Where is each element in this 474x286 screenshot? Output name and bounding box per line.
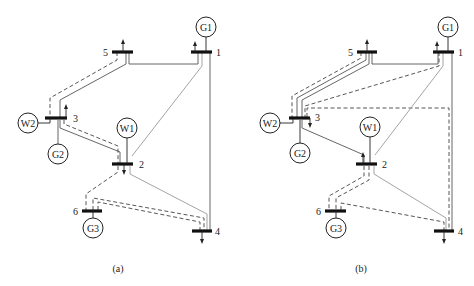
svg-text:G1: G1 [442,22,454,33]
load-arrow-icon [122,164,126,175]
bus-label-2: 2 [139,159,144,170]
bus-label-1: 1 [458,47,463,58]
svg-text:G2: G2 [52,149,64,160]
load-arrow-icon [121,39,125,52]
bus-label-1: 1 [216,47,221,58]
generator-g1: G1 [438,17,458,37]
bus-label-6: 6 [316,206,321,217]
bus-label-6: 6 [73,206,78,217]
load-arrow-icon [365,39,369,52]
generator-g3: G3 [83,218,103,238]
bus-label-3: 3 [315,112,320,123]
load-arrow-icon [442,231,446,244]
generator-g2: G2 [290,143,310,163]
line-6-4-dashed-2 [98,202,200,230]
load-arrow-icon [200,231,204,244]
svg-text:G3: G3 [330,223,342,234]
line-2-6-dashed-1 [329,166,364,210]
load-arrow-icon [193,41,197,52]
load-arrow-icon [435,41,439,52]
panel-a: 5 1 3 2 6 4 G1 W2 [18,17,221,275]
svg-text:W2: W2 [21,118,35,129]
generator-w1: W1 [360,117,380,137]
line-3-2-dashed [64,120,118,163]
caption-b: (b) [355,263,367,275]
svg-text:G3: G3 [87,223,99,234]
line-5-1 [129,52,198,64]
line-6-4-dashed-1 [93,198,204,230]
caption-a: (a) [112,263,123,275]
line-1-2 [132,52,202,156]
bus-label-5: 5 [348,47,353,58]
bus-label-4: 4 [215,226,220,237]
svg-text:W1: W1 [363,122,377,133]
line-5-3 [60,52,126,117]
generator-w2: W2 [18,113,38,133]
svg-text:G1: G1 [200,22,212,33]
line-2-4 [130,166,207,230]
svg-text:W2: W2 [263,118,277,129]
load-arrow-icon [64,104,68,118]
bus-label-2: 2 [382,159,387,170]
svg-text:G2: G2 [294,148,306,159]
panel-b: 5 1 3 2 6 4 G1 W2 [260,17,463,275]
generator-w1: W1 [117,118,137,138]
generator-g3: G3 [326,218,346,238]
bus-label-5: 5 [103,47,108,58]
bus-label-3: 3 [73,113,78,124]
bus-label-4: 4 [458,226,463,237]
line-2-4 [374,166,446,230]
line-3-2 [302,120,364,163]
line-5-1 [372,52,438,64]
generator-g2: G2 [48,144,68,164]
svg-text:W1: W1 [120,123,134,134]
power-system-diagram: 5 1 3 2 6 4 G1 W2 [0,0,474,286]
generator-w2: W2 [260,113,280,133]
generator-g1: G1 [196,17,216,37]
line-2-6-dashed [86,166,118,210]
